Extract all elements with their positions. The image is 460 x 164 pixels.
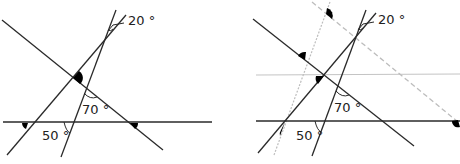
angle-marker-icon (298, 52, 306, 60)
angle-marker-icon (326, 8, 333, 19)
left-angle-50-label: 50 ° (42, 129, 69, 142)
left-angle-20-label: 20 ° (128, 14, 155, 27)
descending-line (2, 20, 163, 150)
right-angle-markers (280, 8, 460, 136)
auxiliary-horizontal-line (256, 74, 460, 75)
right-angle-20-label: 20 ° (378, 13, 405, 26)
angle-marker-icon (73, 71, 83, 84)
angle-marker-icon (22, 123, 28, 129)
steep-line (61, 10, 116, 157)
right-angle-50-label: 50 ° (296, 129, 323, 142)
left-figure (2, 10, 212, 157)
right-figure-aux (256, 2, 460, 155)
left-angle-markers (22, 71, 138, 129)
right-angle-70-label: 70 ° (334, 101, 361, 114)
left-angle-70-label: 70 ° (82, 103, 109, 116)
right-figure (253, 10, 460, 156)
descending-line (253, 19, 414, 146)
